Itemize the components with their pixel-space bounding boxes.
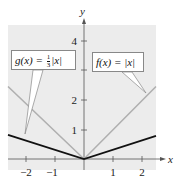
y-axis-arrow-icon xyxy=(82,18,86,24)
g-label-fraction: 13 xyxy=(47,54,51,69)
g-fraction-den: 3 xyxy=(47,62,51,69)
f-label-box: f(x) = |x| xyxy=(92,52,144,72)
x-tick-label: −2 xyxy=(20,166,32,178)
f-label-abs: |x| xyxy=(124,56,135,68)
f-label-prefix: f(x) = xyxy=(96,56,124,68)
y-tick-label: 1 xyxy=(72,124,78,136)
y-tick-label: 4 xyxy=(72,35,78,47)
x-tick-label: 2 xyxy=(139,166,145,178)
x-tick-label: −1 xyxy=(46,166,58,178)
g-label-box: g(x) = 13|x| xyxy=(11,50,76,70)
chart: −2 −1 1 2 1 2 4 x y xyxy=(0,0,178,184)
y-axis-label: y xyxy=(79,5,85,17)
g-label-prefix: g(x) = xyxy=(15,54,46,66)
x-axis-arrow-icon xyxy=(160,157,166,161)
x-axis-label: x xyxy=(167,153,173,165)
x-tick-label: 1 xyxy=(110,166,116,178)
y-tick-label: 2 xyxy=(72,94,78,106)
g-label-abs: |x| xyxy=(51,54,62,66)
